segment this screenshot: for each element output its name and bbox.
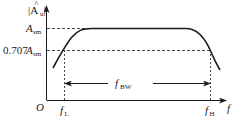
svg-text:BW: BW — [120, 83, 132, 91]
origin-label: O — [36, 101, 44, 113]
response-curve — [53, 29, 220, 71]
y-axis-label: |A ^ u | — [28, 0, 46, 18]
svg-text:A: A — [25, 22, 33, 34]
asm-label: A sm — [25, 22, 42, 36]
fl-label: f L — [60, 104, 69, 118]
svg-text:|: | — [44, 4, 46, 16]
bandwidth-label: f BW — [115, 77, 132, 91]
svg-text:H: H — [210, 110, 215, 118]
svg-text:0.707: 0.707 — [3, 44, 28, 56]
frequency-response-diagram: |A ^ u | A sm 0.707 A sm O f L f H f f B… — [0, 0, 238, 122]
svg-text:sm: sm — [33, 50, 42, 58]
svg-text:^: ^ — [35, 0, 39, 9]
svg-text:sm: sm — [33, 28, 42, 36]
svg-text:A: A — [25, 44, 33, 56]
svg-text:L: L — [65, 110, 69, 118]
0707asm-label: 0.707 A sm — [3, 44, 42, 58]
fh-label: f H — [205, 104, 215, 118]
x-axis-label: f — [227, 102, 232, 114]
